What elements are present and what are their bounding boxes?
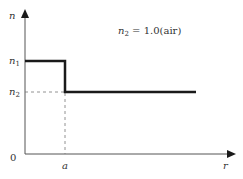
x-axis-arrow-icon [227, 150, 236, 158]
a-label: a [62, 160, 68, 171]
step-index-diagram: n n1 n2 0 a r n2 = 1.0(air) [0, 0, 243, 179]
y-axis-arrow-icon [21, 9, 29, 18]
n2-label: n2 [9, 86, 20, 99]
origin-label: 0 [10, 152, 16, 163]
n1-label: n1 [9, 55, 20, 68]
x-axis-label: r [223, 160, 229, 171]
y-axis-label: n [9, 10, 15, 21]
air-annotation: n2 = 1.0(air) [118, 25, 181, 38]
index-profile-line [25, 61, 196, 92]
